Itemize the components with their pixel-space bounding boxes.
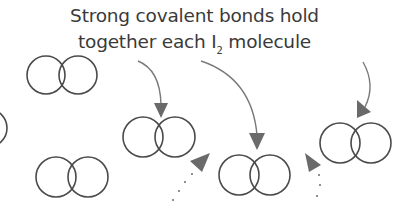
arrowhead-dotted-c-d [190,153,210,172]
molecule-partial [0,109,7,147]
dotted-trail-c-d [172,173,193,201]
caption-line-1: Strong covalent bonds hold [0,5,395,26]
arrowhead-to-c [154,103,168,118]
arrow-shaft-to-d [201,61,257,135]
arrowhead-to-e [357,100,371,118]
arrow-shaft-to-c [138,61,161,104]
caption-line-2-before: together each I [78,31,217,52]
caption-line-2: together each I2 molecule [0,31,395,52]
caption-line-2-after: molecule [223,31,311,52]
molecule-b [36,157,108,197]
dotted-trail-d-e [316,174,321,197]
molecule-d [219,155,290,195]
subscript-2: 2 [216,45,222,56]
molecule-a [27,56,97,94]
arrow-shaft-to-e [363,62,370,107]
molecule-e [320,123,391,163]
arrowhead-to-d [249,133,265,150]
molecule-c [123,117,195,157]
arrowhead-dotted-d-e [305,153,321,172]
